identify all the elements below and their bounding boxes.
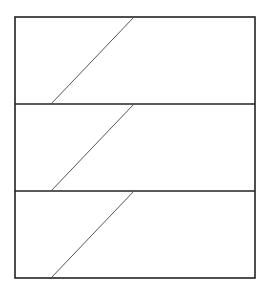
three-band-diagram [0, 0, 271, 299]
diagonal-band-2 [51, 104, 134, 191]
diagonal-band-3 [51, 191, 134, 278]
outer-rectangle [15, 17, 255, 278]
diagonal-band-1 [51, 17, 134, 104]
